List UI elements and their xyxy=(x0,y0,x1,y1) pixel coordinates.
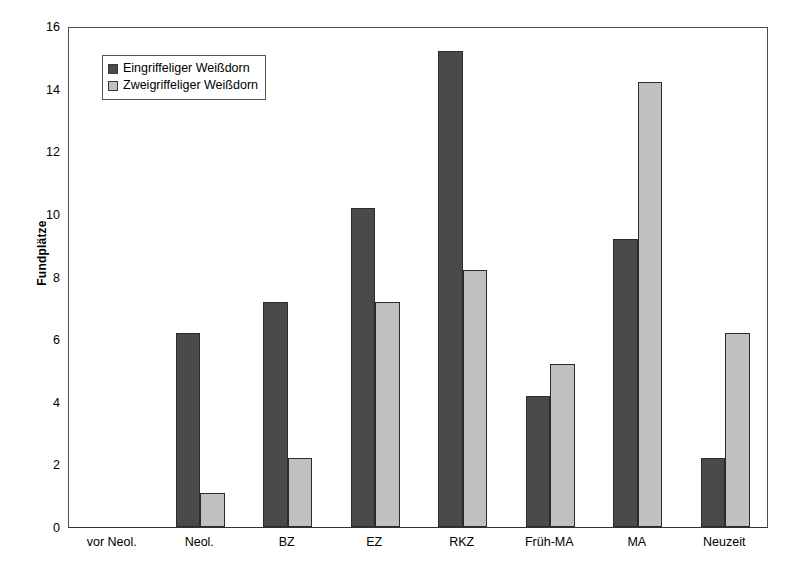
bar xyxy=(463,270,488,527)
x-axis-tick-label: EZ xyxy=(366,536,382,549)
x-axis-tick-label: MA xyxy=(627,536,646,549)
y-axis-tick-label: 16 xyxy=(30,21,60,34)
legend-swatch-icon xyxy=(108,81,118,91)
bar-group xyxy=(438,28,487,527)
bar xyxy=(725,333,750,527)
bar xyxy=(613,239,638,527)
bar-group xyxy=(701,28,750,527)
legend-item-label: Eingriffeliger Weißdorn xyxy=(123,62,250,75)
bar-group xyxy=(351,28,400,527)
bar xyxy=(351,208,376,527)
bar xyxy=(263,302,288,527)
y-axis-tick-label: 2 xyxy=(30,459,60,472)
bar xyxy=(638,82,663,527)
x-axis-tick-label: BZ xyxy=(279,536,295,549)
legend: Eingriffeliger Weißdorn Zweigriffeliger … xyxy=(102,55,266,100)
y-axis-tick-label: 4 xyxy=(30,397,60,410)
y-axis-tick-labels: 1614121086420 xyxy=(30,27,60,528)
bar xyxy=(550,364,575,527)
plot-area: Eingriffeliger Weißdorn Zweigriffeliger … xyxy=(68,27,768,528)
y-axis-tick-label: 0 xyxy=(30,522,60,535)
x-axis-tick-label: Neuzeit xyxy=(703,536,745,549)
legend-item: Eingriffeliger Weißdorn xyxy=(108,60,258,77)
x-axis-tick-label: vor Neol. xyxy=(87,536,137,549)
y-axis-tick-label: 10 xyxy=(30,209,60,222)
bar xyxy=(176,333,201,527)
y-axis-tick-label: 8 xyxy=(30,271,60,284)
bar-group xyxy=(526,28,575,527)
bar-chart: Fundplätze 1614121086420 Eingriffeliger … xyxy=(0,0,790,578)
bar xyxy=(701,458,726,527)
y-axis-tick-label: 6 xyxy=(30,334,60,347)
x-axis-tick-label: Neol. xyxy=(185,536,214,549)
bar xyxy=(526,396,551,528)
bars-layer xyxy=(69,28,767,527)
bar xyxy=(375,302,400,527)
y-axis-tick-label: 14 xyxy=(30,83,60,96)
bar-group xyxy=(176,28,225,527)
legend-swatch-icon xyxy=(108,64,118,74)
legend-item: Zweigriffeliger Weißdorn xyxy=(108,77,258,94)
bar xyxy=(438,51,463,527)
y-axis-tick-label: 12 xyxy=(30,146,60,159)
x-axis-tick-label: Früh-MA xyxy=(525,536,574,549)
bar xyxy=(288,458,313,527)
x-axis-tick-labels: vor Neol.Neol.BZEZRKZFrüh-MAMANeuzeit xyxy=(68,536,768,562)
legend-item-label: Zweigriffeliger Weißdorn xyxy=(123,79,258,92)
x-axis-tick-label: RKZ xyxy=(449,536,474,549)
bar xyxy=(200,493,225,527)
bar-group xyxy=(88,28,137,527)
bar-group xyxy=(613,28,662,527)
bar-group xyxy=(263,28,312,527)
